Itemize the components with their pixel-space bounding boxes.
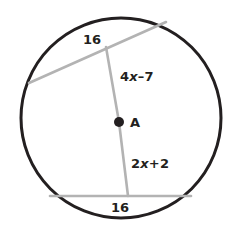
upper-seg-variable: x [129,69,138,84]
circle-geometry-figure: 16 16 4x–7 2x+2 A [0,0,235,241]
upper-seg-coefficient: 4 [120,69,129,84]
lower-segment-expression-label: 2x+2 [131,157,169,170]
upper-seg-term: –7 [138,69,154,84]
lower-seg-term: +2 [149,156,169,171]
lower-seg-coefficient: 2 [131,156,140,171]
center-point-label: A [130,116,140,129]
lower-chord-length-label: 16 [111,201,129,214]
upper-chord-length-label: 16 [83,33,101,46]
lower-seg-variable: x [140,156,149,171]
center-point-dot [114,117,124,127]
upper-segment-line [106,47,119,122]
lower-segment-line [119,122,128,196]
upper-segment-expression-label: 4x–7 [120,70,154,83]
